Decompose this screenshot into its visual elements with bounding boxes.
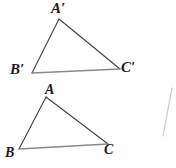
- figure-canvas: [0, 0, 176, 168]
- vertex-label-a-prime: A′: [51, 1, 65, 16]
- edge-bprime-cprime: [32, 69, 120, 73]
- vertex-label-b-prime: B′: [10, 62, 24, 77]
- edge-a-b: [19, 97, 46, 149]
- vertex-label-a: A: [45, 83, 54, 97]
- geometry-figure: A′ B′ C′ A B C: [0, 0, 176, 168]
- triangle-a-b-c: [19, 97, 108, 149]
- vertex-label-c-prime: C′: [121, 60, 135, 75]
- vertex-label-c: C: [104, 143, 113, 157]
- triangle-a-prime-b-prime-c-prime: [32, 19, 120, 73]
- edge-aprime-cprime: [59, 19, 120, 69]
- edge-b-c: [19, 144, 108, 149]
- edge-aprime-bprime: [32, 19, 59, 73]
- vertex-label-b: B: [5, 146, 14, 160]
- edge-a-c: [46, 97, 108, 144]
- stray-diagonal-line: [163, 88, 172, 136]
